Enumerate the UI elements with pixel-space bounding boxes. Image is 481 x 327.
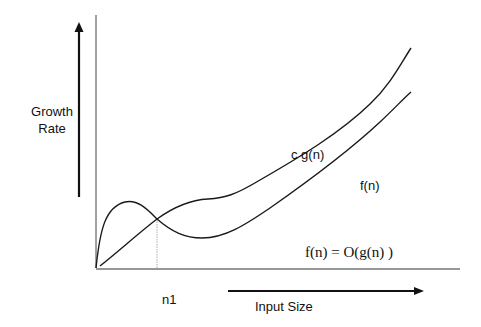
y-axis-label: Growth Rate: [24, 103, 80, 137]
x-axis-label: Input Size: [255, 299, 313, 314]
x-direction-arrow: [228, 287, 424, 295]
big-o-diagram: [0, 0, 481, 327]
f-curve-label: f(n): [360, 178, 380, 193]
n1-label: n1: [162, 292, 176, 307]
cg-curve-label: c g(n): [291, 147, 324, 162]
big-o-relation: f(n) = O(g(n) ): [305, 245, 393, 260]
cg-curve: [100, 48, 411, 266]
